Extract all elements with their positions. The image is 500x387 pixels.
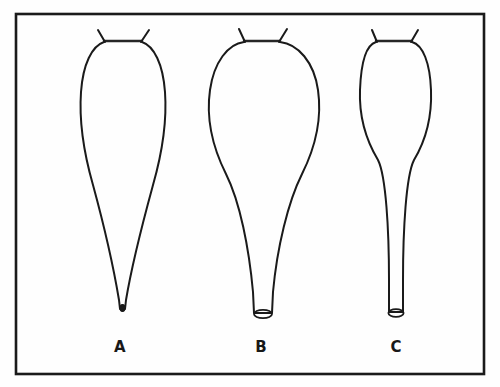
specimen-b-horn-left [239,29,245,42]
specimen-a-horn-right [141,30,149,42]
specimen-b-outline [209,42,319,313]
panel-label-c: C [390,338,401,356]
specimen-c-horn-right [411,30,418,42]
line-diagram: A B C [0,0,500,387]
figure-container: A B C [0,0,500,387]
panel-label-b: B [255,338,267,356]
specimen-a-tip [120,305,125,312]
figure-border [16,14,484,374]
specimen-a: A [81,30,166,356]
specimen-b-horn-right [279,29,287,42]
specimen-b: B [209,29,319,356]
specimen-c-horn-left [372,30,377,42]
specimen-c-outline [360,42,431,312]
specimen-c: C [360,30,431,356]
panel-label-a: A [114,338,126,356]
specimen-a-outline [81,42,166,309]
specimen-a-horn-left [98,30,105,42]
